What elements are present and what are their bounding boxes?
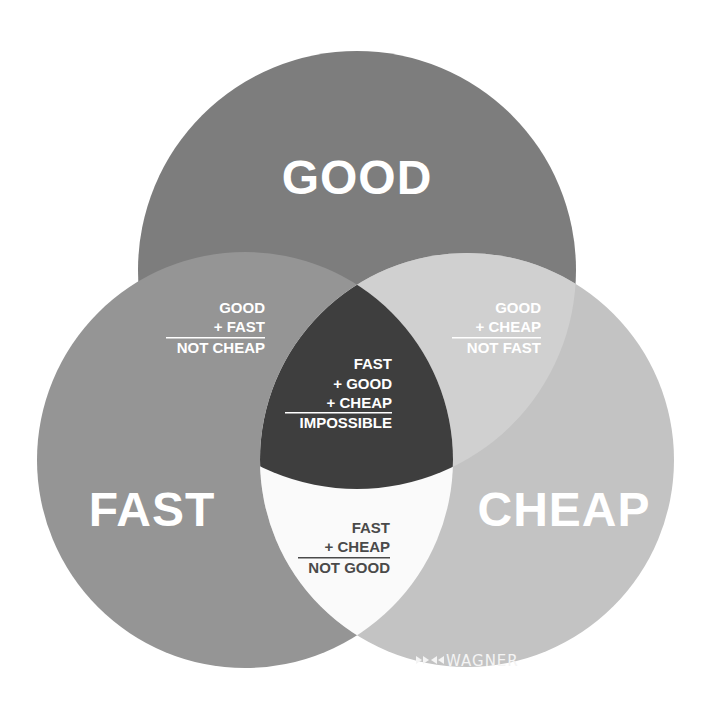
good-fast-line-1: GOOD bbox=[219, 299, 265, 316]
all-result: IMPOSSIBLE bbox=[299, 414, 392, 431]
all-line-3: + CHEAP bbox=[327, 394, 392, 411]
good-cheap-line-1: GOOD bbox=[495, 299, 541, 316]
brand-name: WAGNER bbox=[446, 652, 519, 670]
label-fast: FAST bbox=[89, 483, 216, 536]
label-good: GOOD bbox=[282, 151, 433, 204]
good-cheap-line-2: + CHEAP bbox=[476, 318, 541, 335]
good-fast-result: NOT CHEAP bbox=[177, 339, 265, 356]
fast-cheap-result: NOT GOOD bbox=[308, 559, 390, 576]
label-cheap: CHEAP bbox=[477, 483, 650, 536]
fast-cheap-line-2: + CHEAP bbox=[325, 538, 390, 555]
good-fast-line-2: + FAST bbox=[214, 318, 265, 335]
fast-cheap-line-1: FAST bbox=[352, 519, 390, 536]
all-line-1: FAST bbox=[354, 355, 392, 372]
venn-diagram: GOOD FAST CHEAP GOOD + FAST NOT CHEAP GO… bbox=[0, 0, 711, 718]
all-line-2: + GOOD bbox=[333, 375, 392, 392]
good-cheap-result: NOT FAST bbox=[467, 339, 541, 356]
